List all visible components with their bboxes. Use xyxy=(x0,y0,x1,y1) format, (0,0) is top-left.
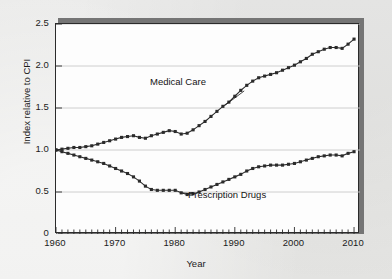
series-marker xyxy=(221,105,224,108)
series-marker xyxy=(347,43,350,46)
series-marker xyxy=(72,153,75,156)
series-marker xyxy=(78,155,81,158)
series-marker xyxy=(144,185,147,188)
series-marker xyxy=(174,189,177,192)
series-marker xyxy=(341,47,344,50)
series-marker xyxy=(84,157,87,160)
series-marker xyxy=(162,189,165,192)
series-marker xyxy=(323,48,326,51)
series-marker xyxy=(60,150,63,153)
series-marker xyxy=(162,131,165,134)
series-marker xyxy=(192,128,195,131)
series-marker xyxy=(239,173,242,176)
series-marker xyxy=(132,175,135,178)
series-marker xyxy=(150,188,153,191)
series-marker xyxy=(251,80,254,83)
plot-area xyxy=(55,23,359,233)
chart-figure: 00.51.01.52.02.5 19601970198019902000201… xyxy=(0,0,392,279)
series-marker xyxy=(245,84,248,87)
series-marker xyxy=(287,66,290,69)
series-marker xyxy=(352,150,355,153)
series-marker xyxy=(281,69,284,72)
series-marker xyxy=(335,153,338,156)
series-marker xyxy=(174,130,177,133)
series-marker xyxy=(209,115,212,118)
series-marker xyxy=(251,167,254,170)
series-marker xyxy=(323,154,326,157)
series-marker xyxy=(245,169,248,172)
series-marker xyxy=(126,172,129,175)
series-marker xyxy=(335,46,338,49)
x-tick-label-1960: 1960 xyxy=(35,237,75,248)
x-axis-title: Year xyxy=(0,258,392,269)
series-marker xyxy=(138,180,141,183)
series-marker xyxy=(114,167,117,170)
series-marker xyxy=(257,165,260,168)
series-marker xyxy=(126,135,129,138)
series-marker xyxy=(156,132,159,135)
series-label-prescription-drugs: Prescription Drugs xyxy=(188,189,266,200)
x-tick-label-2000: 2000 xyxy=(273,237,313,248)
series-marker xyxy=(84,145,87,148)
series-marker xyxy=(305,57,308,60)
series-marker xyxy=(203,120,206,123)
series-line-1 xyxy=(56,150,354,195)
series-marker xyxy=(329,46,332,49)
y-axis-title: Index relative to CPI xyxy=(21,32,32,172)
series-marker xyxy=(144,137,147,140)
x-tick-label-1980: 1980 xyxy=(154,237,194,248)
series-marker xyxy=(96,143,99,146)
leader-line-medical-care xyxy=(225,91,245,106)
series-marker xyxy=(215,183,218,186)
series-marker xyxy=(66,152,69,155)
series-marker xyxy=(233,175,236,178)
series-marker xyxy=(341,154,344,157)
series-marker xyxy=(72,146,75,149)
series-marker xyxy=(329,153,332,156)
series-marker xyxy=(281,164,284,167)
y-tick-label-0.5: 0.5 xyxy=(21,185,49,196)
series-marker xyxy=(102,162,105,165)
series-marker xyxy=(108,164,111,167)
series-marker xyxy=(90,159,93,162)
series-marker xyxy=(239,89,242,92)
series-marker xyxy=(305,159,308,162)
series-marker xyxy=(90,144,93,147)
series-marker xyxy=(263,75,266,78)
series-marker xyxy=(317,50,320,53)
plot-canvas xyxy=(56,24,360,234)
series-marker xyxy=(102,141,105,144)
series-marker xyxy=(168,189,171,192)
series-marker xyxy=(269,164,272,167)
series-marker xyxy=(56,148,58,151)
series-marker xyxy=(156,189,159,192)
series-marker xyxy=(114,138,117,141)
series-marker xyxy=(293,162,296,165)
series-label-medical-care: Medical Care xyxy=(150,76,206,87)
series-marker xyxy=(317,155,320,158)
x-tick-label-1970: 1970 xyxy=(95,237,135,248)
series-marker xyxy=(66,147,69,150)
series-marker xyxy=(299,60,302,63)
x-tick-label-2010: 2010 xyxy=(333,237,373,248)
y-tick-label-2.5: 2.5 xyxy=(21,17,49,28)
series-marker xyxy=(293,64,296,67)
series-marker xyxy=(275,164,278,167)
series-marker xyxy=(180,191,183,194)
series-marker xyxy=(275,71,278,74)
series-marker xyxy=(180,132,183,135)
series-marker xyxy=(269,73,272,76)
series-marker xyxy=(96,160,99,163)
series-marker xyxy=(263,164,266,167)
series-marker xyxy=(227,178,230,181)
series-marker xyxy=(311,157,314,160)
series-marker xyxy=(198,124,201,127)
series-marker xyxy=(120,169,123,172)
series-marker xyxy=(347,152,350,155)
series-marker xyxy=(299,160,302,163)
series-marker xyxy=(150,134,153,137)
series-marker xyxy=(352,38,355,41)
series-marker xyxy=(138,136,141,139)
series-line-0 xyxy=(56,39,354,150)
series-marker xyxy=(108,139,111,142)
